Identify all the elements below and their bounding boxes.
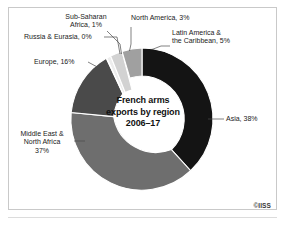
- slice-label-sub-saharan-africa: Sub-Saharan Africa, 1%: [52, 13, 120, 30]
- slice-label-north-america: North America, 3%: [131, 14, 203, 22]
- slice-label-latin-america-caribbean: Latin America & the Caribbean, 5%: [172, 29, 248, 46]
- slice-label-middle-east-north-africa: Middle East & North Africa 37%: [10, 130, 74, 155]
- slice-label-asia: Asia, 38%: [226, 115, 274, 123]
- chart-center-title: French arms exports by region 2006–17: [97, 95, 189, 130]
- bottom-rule: [8, 217, 277, 218]
- center-title-text-1: French arms: [117, 95, 170, 105]
- copyright-credit: ©IISS: [253, 202, 271, 209]
- leader-line-russia-eurasia: [104, 37, 120, 54]
- leader-line-north-america: [130, 27, 132, 51]
- slice-label-europe: Europe, 16%: [34, 58, 90, 66]
- center-title-text-2: exports by region: [106, 107, 180, 117]
- slice-label-russia-eurasia: Russia & Eurasia, 0%: [24, 33, 106, 41]
- chart-figure: French arms exports by region 2006–17 Su…: [0, 0, 285, 225]
- center-title-text-3: 2006–17: [126, 118, 160, 128]
